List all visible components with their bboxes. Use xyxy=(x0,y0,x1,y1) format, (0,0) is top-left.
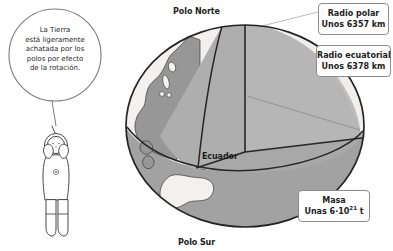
lake-4 xyxy=(167,93,171,97)
astronaut-leg-left xyxy=(46,200,56,236)
label-ecuador: Ecuador xyxy=(202,152,238,161)
callout-radio-ecuatorial-value: Unos 6378 km xyxy=(317,61,390,72)
callout-radio-polar-value: Unos 6357 km xyxy=(319,19,388,30)
callout-masa-title: Masa xyxy=(299,195,369,206)
callout-radio-ecuatorial: Radio ecuatorial Unos 6378 km xyxy=(316,45,391,77)
callout-masa-value: Unas 6·1021 t xyxy=(299,206,369,217)
speech-bubble-tail xyxy=(52,100,56,126)
astronaut-torso xyxy=(43,155,69,200)
label-polo-sur: Polo Sur xyxy=(0,238,393,247)
astronaut-arm-left xyxy=(43,144,53,158)
callout-radio-polar-title: Radio polar xyxy=(319,8,388,19)
astronaut-figure xyxy=(43,126,69,236)
callout-masa: Masa Unas 6·1021 t xyxy=(298,190,370,222)
earth-dimensions-figure: La Tierra está ligeramente achatada por … xyxy=(0,0,393,251)
callout-radio-polar: Radio polar Unos 6357 km xyxy=(318,3,389,35)
astronaut-arm-right xyxy=(59,144,69,158)
callout-radio-ecuatorial-title: Radio ecuatorial xyxy=(317,50,390,61)
lake-3 xyxy=(160,92,165,97)
astronaut-leg-right xyxy=(58,200,68,236)
astronaut-antenna xyxy=(52,126,55,133)
callout-masa-exponent: 21 xyxy=(349,205,357,211)
astronaut-chest-button xyxy=(55,171,57,173)
speech-bubble-text: La Tierra está ligeramente achatada por … xyxy=(14,26,96,74)
island-small-2 xyxy=(143,156,154,169)
